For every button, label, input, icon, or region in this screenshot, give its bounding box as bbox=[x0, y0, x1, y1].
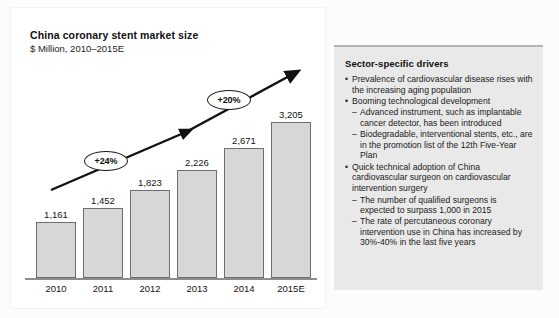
driver-subitem: –Advanced instrument, such as implantabl… bbox=[352, 107, 533, 128]
callout-cagr-2: +20% bbox=[207, 90, 251, 110]
bar-2012 bbox=[130, 190, 170, 279]
driver-subitem: –The number of qualified surgeons is exp… bbox=[352, 195, 533, 216]
driver-subitem-text: The rate of percutaneous coronary interv… bbox=[360, 216, 522, 247]
dash-icon: – bbox=[352, 216, 357, 227]
bar-2013 bbox=[177, 170, 217, 278]
driver-item-text: Booming technological development bbox=[352, 96, 490, 106]
bar-value-2012: 1,823 bbox=[122, 177, 178, 188]
screenshot-root: China coronary stent market size $ Milli… bbox=[0, 0, 559, 318]
drivers-title: Sector-specific drivers bbox=[345, 58, 533, 69]
bar-value-2014: 2,671 bbox=[216, 135, 272, 146]
bar-value-2011: 1,452 bbox=[75, 195, 131, 206]
dash-icon: – bbox=[352, 107, 357, 118]
driver-subitem: –The rate of percutaneous coronary inter… bbox=[352, 216, 533, 248]
driver-subitem-text: The number of qualified surgeons is expe… bbox=[360, 195, 497, 216]
drivers-list: •Prevalence of cardiovascular disease ri… bbox=[345, 74, 533, 248]
bar-2014 bbox=[224, 148, 264, 278]
dash-icon: – bbox=[352, 195, 357, 206]
bar-2011 bbox=[83, 208, 123, 279]
driver-sublist: –The number of qualified surgeons is exp… bbox=[352, 195, 533, 248]
drivers-panel: Sector-specific drivers •Prevalence of c… bbox=[334, 45, 543, 290]
bar-value-2013: 2,226 bbox=[169, 157, 225, 168]
bar-value-2010: 1,161 bbox=[28, 209, 84, 220]
bullet-icon: • bbox=[345, 74, 348, 85]
driver-sublist: –Advanced instrument, such as implantabl… bbox=[352, 107, 533, 160]
driver-item: •Prevalence of cardiovascular disease ri… bbox=[345, 74, 533, 95]
driver-subitem-text: Advanced instrument, such as implantable… bbox=[360, 107, 521, 128]
driver-item: •Booming technological development–Advan… bbox=[345, 96, 533, 161]
dash-icon: – bbox=[352, 129, 357, 140]
driver-item-text: Prevalence of cardiovascular disease ris… bbox=[352, 74, 533, 95]
driver-subitem-text: Biodegradable, interventional stents, et… bbox=[360, 129, 532, 160]
callout-cagr-1: +24% bbox=[84, 151, 128, 171]
bar-2010 bbox=[36, 222, 76, 279]
bar-value-2015E: 3,205 bbox=[263, 109, 319, 120]
x-label-2015E: 2015E bbox=[263, 283, 319, 294]
bar-2015E bbox=[271, 122, 311, 278]
bullet-icon: • bbox=[345, 96, 348, 107]
plot-area: 1,16120101,45220111,82320122,22620132,67… bbox=[11, 8, 325, 308]
driver-item: •Quick technical adoption of China cardi… bbox=[345, 162, 533, 248]
driver-item-text: Quick technical adoption of China cardio… bbox=[352, 162, 511, 193]
chart-card: China coronary stent market size $ Milli… bbox=[11, 8, 325, 308]
driver-subitem: –Biodegradable, interventional stents, e… bbox=[352, 129, 533, 161]
bullet-icon: • bbox=[345, 162, 348, 173]
